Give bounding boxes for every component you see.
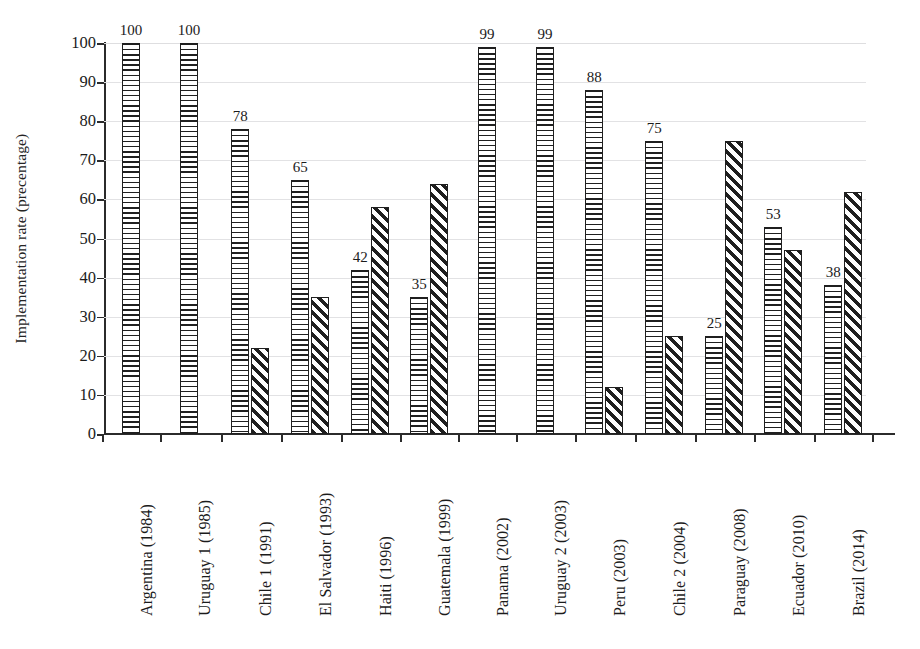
x-axis-category-label: Panama (2002) [494,517,512,616]
x-axis-category-label: Uruguay 1 (1985) [196,500,214,616]
x-axis-tick [221,435,223,442]
x-axis-category-label: Brazil (2014) [850,529,868,616]
x-axis-tick [400,435,402,442]
x-axis-tick [516,435,518,442]
x-axis-category-labels: Argentina (1984)Uruguay 1 (1985)Chile 1 … [0,0,920,649]
x-axis-category-label: Ecuador (2010) [790,515,808,616]
x-axis-tick [575,435,577,442]
x-axis-category-label: Chile 1 (1991) [257,521,275,616]
x-axis-category-label: Paraguay (2008) [731,508,749,616]
x-axis-category-label: El Salvador (1993) [317,492,335,616]
x-axis-tick [281,435,283,442]
x-axis-category-label: Peru (2003) [611,539,629,616]
x-axis-category-label: Guatemala (1999) [436,498,454,616]
x-axis-tick [341,435,343,442]
x-axis-tick [458,435,460,442]
x-axis-category-label: Chile 2 (2004) [671,521,689,616]
bar-chart-figure: Implementation rate (precentage) 0102030… [0,0,920,649]
x-axis-tick [754,435,756,442]
x-axis-tick [872,435,874,442]
x-axis-tick [160,435,162,442]
x-axis-category-label: Argentina (1984) [138,504,156,616]
x-axis-tick [635,435,637,442]
x-axis-tick [814,435,816,442]
x-axis-tick [695,435,697,442]
x-axis-category-label: Uruguay 2 (2003) [552,500,570,616]
x-axis-category-label: Haiti (1996) [377,536,395,616]
x-axis-tick [102,435,104,442]
